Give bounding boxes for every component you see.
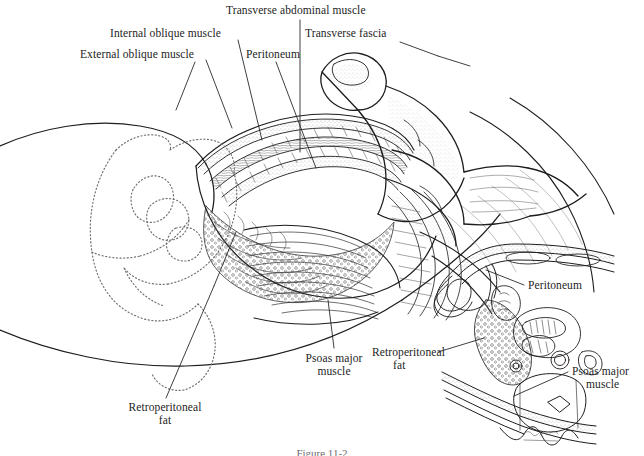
label-psoas-major-muscle-line2: muscle	[288, 365, 380, 378]
figure-caption: Figure 11-2	[0, 447, 644, 456]
anatomical-illustration	[0, 0, 644, 456]
hand-contour-lines	[470, 175, 538, 212]
label-internal-oblique-muscle: Internal oblique muscle	[110, 27, 221, 40]
figure-page: Transverse abdominal muscle Internal obl…	[0, 0, 644, 456]
label-retroperitoneal-fat-line1: Retroperitoneal	[112, 401, 218, 414]
label-inset-retroperitoneal-fat-line1: Retroperitoneal	[372, 346, 434, 359]
retroperitoneal-fat-mass	[204, 206, 394, 303]
label-external-oblique-muscle: External oblique muscle	[80, 48, 194, 61]
label-transverse-abdominal-muscle: Transverse abdominal muscle	[226, 4, 366, 17]
label-psoas-major-muscle-line1: Psoas major	[288, 352, 380, 365]
label-inset-psoas-major-line2: muscle	[586, 378, 619, 391]
label-inset-psoas-major-line1: Psoas major	[572, 365, 629, 378]
label-inset-retroperitoneal-fat-line2: fat	[393, 359, 405, 372]
label-retroperitoneal-fat-line2: fat	[112, 414, 218, 427]
label-inset-peritoneum: Peritoneum	[528, 279, 582, 292]
abdominal-wall-layers	[198, 119, 413, 206]
label-transverse-fascia: Transverse fascia	[305, 27, 386, 40]
label-peritoneum: Peritoneum	[246, 48, 300, 61]
